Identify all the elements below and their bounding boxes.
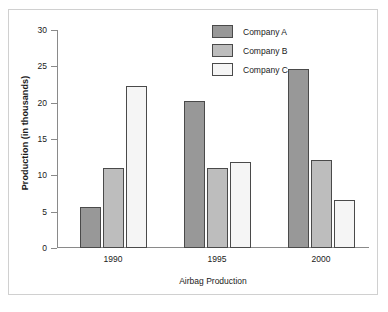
y-axis-tick [51, 139, 57, 140]
y-axis-tick-label: 25 [21, 61, 47, 71]
bar [207, 168, 228, 248]
y-axis-tick [51, 248, 57, 249]
bar [184, 101, 205, 249]
y-axis-tick [51, 66, 57, 67]
bar [311, 160, 332, 248]
y-axis-tick-label: 20 [21, 98, 47, 108]
y-axis-tick [51, 212, 57, 213]
y-axis-tick-label: 5 [21, 207, 47, 217]
y-axis-line [57, 30, 58, 248]
y-axis-tick-label: 10 [21, 170, 47, 180]
y-axis-tick-label: 30 [21, 25, 47, 35]
y-axis-tick [51, 30, 57, 31]
y-axis-tick-label: 15 [21, 134, 47, 144]
y-axis-tick [51, 175, 57, 176]
bar [334, 200, 355, 248]
x-axis-group-label: 1990 [83, 254, 143, 264]
plot-area: 051015202530 199019952000 [57, 30, 369, 248]
bar [80, 207, 101, 248]
y-axis-tick [51, 103, 57, 104]
y-axis-tick-label: 0 [21, 243, 47, 253]
x-axis-group-label: 2000 [291, 254, 351, 264]
x-axis-group-label: 1995 [187, 254, 247, 264]
x-axis-title: Airbag Production [57, 276, 369, 286]
bar [126, 86, 147, 248]
chart-frame: Production (in thousands) Company A Comp… [8, 9, 378, 295]
bar [103, 168, 124, 248]
bar [288, 69, 309, 248]
bar [230, 162, 251, 248]
